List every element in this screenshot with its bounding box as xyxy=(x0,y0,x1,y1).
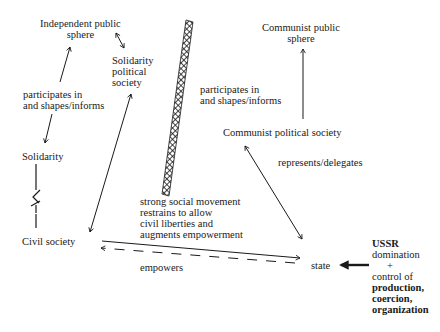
ussr-domination: domination xyxy=(372,249,429,260)
ussr-control: control of xyxy=(372,271,429,282)
label-strong-social-movement: strong social movement restrains to allo… xyxy=(140,196,243,240)
arrow-participates-to-solidarity xyxy=(45,114,52,143)
dialectic-link-icon xyxy=(31,164,40,228)
arrow-civil-to-state xyxy=(102,241,300,258)
label-represents-delegates: represents/delegates xyxy=(278,157,363,168)
arrow-solidarity-political-civil xyxy=(90,94,131,232)
label-right-participates: participates in and shapes/informs xyxy=(200,84,281,106)
ussr-title: USSR xyxy=(372,238,429,249)
node-civil-society: Civil society xyxy=(22,236,75,247)
hatched-barrier xyxy=(162,20,193,196)
node-solidarity: Solidarity xyxy=(22,151,63,162)
label-empowers: empowers xyxy=(140,262,183,273)
node-ussr: USSR domination + control of production,… xyxy=(372,238,429,315)
node-communist-public-sphere: Communist public sphere xyxy=(262,22,340,44)
node-solidarity-political-society: Solidarity political society xyxy=(112,55,153,88)
label-left-participates: participates in and shapes/informs xyxy=(23,89,104,111)
node-communist-political-society: Communist political society xyxy=(223,127,341,138)
ussr-control-items: production, coercion, organization xyxy=(372,282,429,315)
arrow-participates-to-public-sphere xyxy=(60,47,70,82)
node-independent-public-sphere: Independent public sphere xyxy=(40,18,121,40)
node-state: state xyxy=(311,260,330,271)
ussr-plus: + xyxy=(372,260,429,271)
